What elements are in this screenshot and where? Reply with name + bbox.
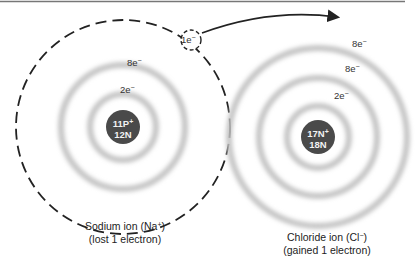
chloride-shell-1-label: 2e− [334,90,349,101]
chloride-shell-2-label: 8e− [345,63,360,74]
chloride-shell-3-label: 8e− [352,38,367,49]
transfer-electron-label: 1e− [181,34,196,45]
sodium-shell-1-label: 2e− [120,84,135,95]
transfer-arrow [202,15,337,33]
sodium-caption: Sodium ion (Na+) (lost 1 electron) [60,218,190,246]
sodium-shell-2-label: 8e− [127,57,142,68]
chloride-caption: Chloride ion (Cl−) (gained 1 electron) [262,229,392,257]
sodium-nucleus-label: 11P+ 12N [103,116,143,140]
chloride-nucleus-label: 17N+ 18N [298,126,338,150]
